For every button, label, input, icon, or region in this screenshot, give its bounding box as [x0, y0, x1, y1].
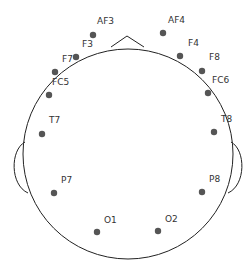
eeg-head-diagram: AF3F3F7FC5T7P7O1O2P8T8FC6F8F4AF4 — [0, 0, 251, 272]
electrode-dot — [177, 53, 183, 59]
electrode-dot — [46, 92, 52, 98]
electrode-f8: F8 — [199, 52, 220, 74]
electrode-label: AF4 — [168, 15, 185, 25]
electrode-dot — [73, 54, 79, 60]
electrode-dot — [160, 30, 166, 36]
nose — [111, 36, 144, 47]
electrode-dot — [211, 129, 217, 135]
electrode-label: F7 — [62, 54, 73, 64]
electrode-label: T7 — [48, 115, 60, 125]
electrode-label: O2 — [165, 214, 178, 224]
electrode-label: F3 — [82, 39, 93, 49]
electrode-o1: O1 — [94, 215, 117, 235]
electrode-fc5: FC5 — [46, 77, 69, 98]
electrode-label: P8 — [209, 174, 220, 184]
electrode-dot — [94, 229, 100, 235]
electrode-fc6: FC6 — [205, 75, 230, 96]
electrode-label: AF3 — [97, 16, 114, 26]
electrode-dot — [52, 69, 58, 75]
electrode-label: O1 — [104, 215, 117, 225]
head-outline-group — [14, 36, 242, 259]
electrode-t7: T7 — [39, 115, 60, 137]
electrode-f4: F4 — [177, 38, 199, 59]
electrode-label: P7 — [61, 175, 72, 185]
electrode-dot — [155, 228, 161, 234]
electrode-af4: AF4 — [160, 15, 186, 36]
right-ear — [228, 142, 242, 193]
electrode-label: F4 — [188, 38, 199, 48]
left-ear — [14, 142, 28, 193]
electrode-o2: O2 — [155, 214, 178, 234]
electrode-dot — [39, 131, 45, 137]
electrode-dot — [199, 189, 205, 195]
electrode-label: FC6 — [212, 75, 229, 85]
electrode-label: T8 — [220, 114, 232, 124]
electrode-group: AF3F3F7FC5T7P7O1O2P8T8FC6F8F4AF4 — [39, 15, 233, 235]
electrode-dot — [205, 90, 211, 96]
electrode-f3: F3 — [73, 39, 93, 60]
electrode-p8: P8 — [199, 174, 221, 195]
electrode-label: F8 — [209, 52, 220, 62]
electrode-af3: AF3 — [90, 16, 114, 38]
electrode-p7: P7 — [51, 175, 72, 196]
electrode-dot — [90, 32, 96, 38]
electrode-label: FC5 — [52, 77, 69, 87]
electrode-dot — [199, 68, 205, 74]
electrode-dot — [51, 190, 57, 196]
